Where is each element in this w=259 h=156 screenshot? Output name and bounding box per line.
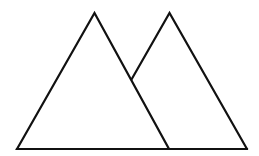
right-triangle	[131, 13, 247, 149]
diagram-canvas	[0, 0, 259, 156]
overlapping-triangles-diagram	[0, 0, 259, 156]
left-triangle	[17, 13, 169, 149]
